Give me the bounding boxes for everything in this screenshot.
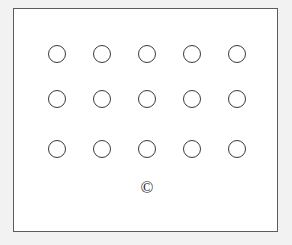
circle-r2-c1[interactable] bbox=[48, 90, 66, 108]
circle-r2-c4[interactable] bbox=[183, 90, 201, 108]
diagram-frame: © bbox=[13, 8, 278, 232]
circle-r1-c2[interactable] bbox=[93, 45, 111, 63]
circle-r2-c5[interactable] bbox=[228, 90, 246, 108]
copyright-symbol: © bbox=[141, 179, 154, 196]
diagram-page: © bbox=[0, 0, 292, 245]
circle-r1-c5[interactable] bbox=[228, 45, 246, 63]
circle-r3-c1[interactable] bbox=[48, 140, 66, 158]
circle-r1-c3[interactable] bbox=[138, 45, 156, 63]
circle-r1-c1[interactable] bbox=[48, 45, 66, 63]
circle-grid bbox=[14, 9, 277, 231]
circle-r3-c2[interactable] bbox=[93, 140, 111, 158]
circle-r3-c4[interactable] bbox=[183, 140, 201, 158]
circle-r3-c3[interactable] bbox=[138, 140, 156, 158]
circle-r2-c3[interactable] bbox=[138, 90, 156, 108]
circle-r3-c5[interactable] bbox=[228, 140, 246, 158]
circle-r2-c2[interactable] bbox=[93, 90, 111, 108]
circle-r1-c4[interactable] bbox=[183, 45, 201, 63]
